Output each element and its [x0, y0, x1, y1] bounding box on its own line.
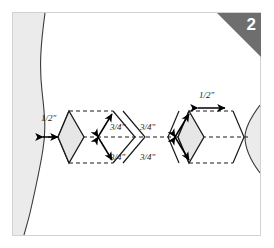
dim-label-right-lower-three-quarter: 3/4"	[140, 153, 155, 162]
dim-label-left-lower-three-quarter: 3/4"	[110, 153, 125, 162]
step-number-text: 2	[247, 16, 256, 33]
left-diamond-piece	[58, 111, 84, 163]
left-fabric-panel	[13, 13, 45, 235]
dim-label-left-upper-three-quarter: 3/4"	[110, 123, 125, 132]
dim-label-left-half-inch: 1/2"	[41, 114, 56, 123]
right-diamond-piece	[178, 111, 204, 163]
dim-label-right-upper-three-quarter: 3/4"	[140, 123, 155, 132]
step-number-badge: 2	[217, 13, 261, 57]
dim-label-right-half-inch: 1/2"	[199, 91, 214, 100]
figure-stage: 1/2" 3/4" 3/4" 3/4" 3/4" 1/2" 2	[0, 0, 274, 248]
